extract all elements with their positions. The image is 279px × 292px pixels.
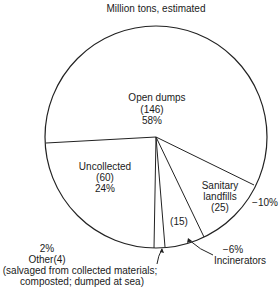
label-sanitary-1: Sanitary: [195, 180, 245, 191]
value-sanitary: (25): [200, 202, 240, 213]
label-incinerators: Incinerators: [210, 255, 270, 266]
pct-open-dumps: 58%: [132, 115, 172, 126]
label-other: Other(4): [22, 254, 72, 265]
label-open-dumps: Open dumps: [122, 92, 192, 103]
chart-title: Million tons, estimated: [100, 3, 212, 14]
pct-other: 2%: [32, 243, 62, 254]
pct-incinerators: −6%: [218, 244, 248, 255]
value-incinerators: (15): [164, 216, 194, 227]
value-open-dumps: (146): [132, 104, 172, 115]
value-uncollected: (60): [85, 172, 125, 183]
label-uncollected: Uncollected: [75, 161, 135, 172]
note-other-1: (salvaged from collected materials;: [0, 265, 160, 276]
pct-uncollected: 24%: [85, 183, 125, 194]
pct-sanitary: −10%: [251, 197, 279, 208]
note-other-2: composted; dumped at sea): [20, 276, 140, 287]
label-sanitary-2: landfills: [195, 191, 245, 202]
